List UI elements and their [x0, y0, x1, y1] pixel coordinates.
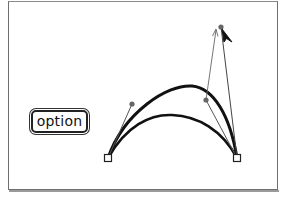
dragged-handle-point[interactable]	[218, 24, 223, 29]
option-key: option	[31, 110, 88, 133]
right-anchor-point[interactable]	[234, 155, 241, 162]
bezier-diagram	[0, 0, 283, 204]
option-key-label: option	[37, 114, 82, 128]
left-handle-point[interactable]	[129, 101, 134, 106]
drag-arrow-line	[206, 30, 216, 100]
left-anchor-point[interactable]	[105, 155, 112, 162]
arrow-pointer-icon	[222, 29, 232, 42]
